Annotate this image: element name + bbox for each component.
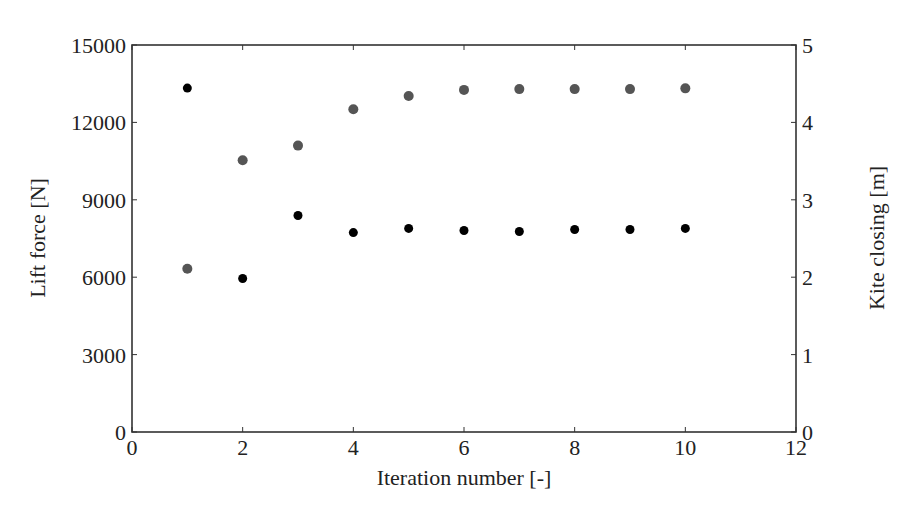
lift-force-point (460, 226, 469, 235)
y-axis-right-title: Kite closing [m] (864, 166, 889, 310)
y-tick-label-right: 4 (802, 110, 813, 135)
lift-force-point (681, 224, 690, 233)
x-tick-label: 0 (127, 435, 138, 460)
y-tick-label-right: 1 (802, 343, 813, 368)
kite-closing-point (348, 104, 358, 114)
kite-closing-point (459, 85, 469, 95)
y-tick-label-left: 6000 (82, 265, 126, 290)
kite-closing-point (293, 141, 303, 151)
y-axis-left-title: Lift force [N] (25, 178, 50, 298)
y-tick-label-left: 12000 (71, 110, 126, 135)
x-tick-label: 4 (348, 435, 359, 460)
y-tick-label-right: 2 (802, 265, 813, 290)
dual-axis-scatter-chart: 02468101203000600090001200015000012345 I… (0, 0, 901, 512)
y-tick-label-left: 0 (115, 420, 126, 445)
axis-tick-labels: 02468101203000600090001200015000012345 (71, 33, 813, 460)
x-axis-title: Iteration number [-] (377, 465, 552, 490)
axis-ticks (132, 45, 796, 432)
kite-closing-point (514, 84, 524, 94)
data-points (182, 83, 690, 283)
kite-closing-point (570, 84, 580, 94)
kite-closing-point (182, 264, 192, 274)
lift-force-point (294, 211, 303, 220)
kite-closing-point (680, 83, 690, 93)
x-tick-label: 6 (459, 435, 470, 460)
lift-force-point (626, 225, 635, 234)
kite-closing-point (404, 91, 414, 101)
y-tick-label-right: 5 (802, 33, 813, 58)
lift-force-point (183, 84, 192, 93)
y-tick-label-right: 0 (802, 420, 813, 445)
y-tick-label-left: 3000 (82, 343, 126, 368)
y-tick-label-right: 3 (802, 188, 813, 213)
plot-border (132, 45, 796, 432)
plot-frame (132, 45, 796, 432)
lift-force-point (404, 224, 413, 233)
x-tick-label: 8 (569, 435, 580, 460)
lift-force-point (349, 228, 358, 237)
lift-force-point (570, 225, 579, 234)
kite-closing-point (625, 84, 635, 94)
x-tick-label: 2 (237, 435, 248, 460)
x-tick-label: 10 (674, 435, 696, 460)
lift-force-point (238, 274, 247, 283)
y-tick-label-left: 15000 (71, 33, 126, 58)
kite-closing-point (238, 155, 248, 165)
lift-force-point (515, 227, 524, 236)
y-tick-label-left: 9000 (82, 188, 126, 213)
